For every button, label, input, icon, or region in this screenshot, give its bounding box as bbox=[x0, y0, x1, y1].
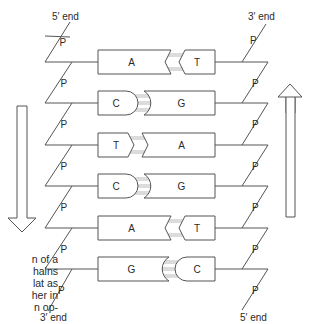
left-base-label: A bbox=[128, 57, 135, 68]
phosphate-label: P bbox=[58, 285, 65, 296]
phosphate-label: P bbox=[60, 37, 67, 48]
right-base-label: T bbox=[194, 57, 200, 68]
right-base-label: G bbox=[178, 181, 186, 192]
phosphate-label: P bbox=[252, 244, 259, 255]
caption-line: n of a bbox=[0, 253, 58, 265]
caption-line: her in bbox=[0, 289, 58, 301]
base-pair: GC bbox=[98, 257, 215, 281]
left-strand-top-label: 5′ end bbox=[52, 11, 79, 22]
phosphate-label: P bbox=[61, 244, 68, 255]
left-base-label: A bbox=[128, 223, 135, 234]
phosphate-label: P bbox=[61, 161, 68, 172]
right-base-label: A bbox=[178, 140, 185, 151]
phosphate-label: P bbox=[61, 78, 68, 89]
left-strand-bottom-label: 3′ end bbox=[40, 312, 67, 323]
base-pair: AT bbox=[98, 50, 215, 74]
left-base-label: C bbox=[112, 181, 119, 192]
phosphate-label: P bbox=[252, 285, 259, 296]
right-base-label: T bbox=[194, 223, 200, 234]
caption-line: hains bbox=[0, 265, 58, 277]
arrow-up-icon bbox=[278, 84, 302, 217]
caption-line: lat as bbox=[0, 277, 58, 289]
base-pairs: ATCGTACGATGC bbox=[98, 50, 215, 281]
right-base-label: C bbox=[193, 264, 200, 275]
right-strand-bottom-label: 5′ end bbox=[240, 312, 267, 323]
caption-line: n op- bbox=[0, 301, 58, 313]
phosphate-label: P bbox=[250, 35, 257, 46]
phosphate-label: P bbox=[252, 119, 259, 130]
phosphate-label: P bbox=[252, 78, 259, 89]
base-pair: CG bbox=[98, 174, 215, 198]
left-base-label: C bbox=[112, 98, 119, 109]
phosphate-label: P bbox=[252, 161, 259, 172]
left-base-label: T bbox=[113, 140, 119, 151]
phosphate-label: P bbox=[61, 119, 68, 130]
right-strand-top-label: 3′ end bbox=[248, 11, 275, 22]
right-base-label: G bbox=[178, 98, 186, 109]
phosphate-label: P bbox=[61, 202, 68, 213]
base-pair: AT bbox=[98, 216, 215, 240]
base-pair: CG bbox=[98, 91, 215, 115]
left-base-label: G bbox=[128, 264, 136, 275]
base-pair: TA bbox=[98, 133, 215, 157]
phosphate-label: P bbox=[252, 202, 259, 213]
arrow-down-icon bbox=[8, 106, 36, 232]
right-sugar-phosphate-backbone: PPPPPPP bbox=[215, 24, 268, 310]
